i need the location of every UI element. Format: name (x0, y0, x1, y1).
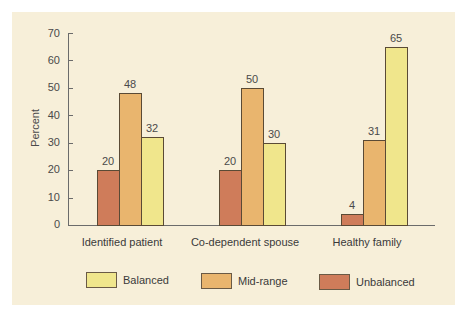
bar-balanced-2 (385, 47, 408, 226)
y-tick-50: 50 (38, 81, 60, 93)
y-tick-mark (68, 88, 73, 89)
y-tick-mark (68, 33, 73, 34)
y-axis-line (68, 33, 69, 225)
y-tick-40: 40 (38, 109, 60, 121)
bar-value-label: 48 (115, 78, 145, 90)
y-tick-0: 0 (38, 218, 60, 230)
bar-value-label: 32 (137, 122, 167, 134)
bar-unbalanced-0 (97, 170, 120, 226)
bar-value-label: 65 (381, 32, 411, 44)
y-tick-60: 60 (38, 54, 60, 66)
bar-balanced-1 (263, 143, 286, 226)
legend-swatch-mid-range (201, 273, 232, 289)
legend-label-balanced: Balanced (123, 274, 169, 286)
y-tick-30: 30 (38, 136, 60, 148)
y-tick-mark (68, 115, 73, 116)
bar-mid-range-0 (119, 93, 142, 226)
bar-mid-range-2 (363, 140, 386, 226)
y-tick-mark (68, 198, 73, 199)
legend-label-unbalanced: Unbalanced (356, 276, 415, 288)
bar-value-label: 50 (237, 73, 267, 85)
bar-unbalanced-1 (219, 170, 242, 226)
y-tick-20: 20 (38, 163, 60, 175)
y-tick-mark (68, 60, 73, 61)
x-category-identified-patient: Identified patient (52, 236, 192, 248)
y-tick-mark (68, 143, 73, 144)
y-tick-70: 70 (38, 27, 60, 39)
y-tick-mark (68, 170, 73, 171)
y-tick-10: 10 (38, 191, 60, 203)
bar-balanced-0 (141, 137, 164, 226)
x-category-healthy-family: Healthy family (297, 236, 437, 248)
bar-unbalanced-2 (341, 214, 364, 226)
legend-label-mid-range: Mid-range (238, 275, 288, 287)
y-tick-mark (68, 225, 73, 226)
x-category-co-dependent-spouse: Co-dependent spouse (175, 236, 315, 248)
bar-value-label: 30 (259, 128, 289, 140)
bar-mid-range-1 (241, 88, 264, 226)
legend-swatch-unbalanced (319, 274, 350, 290)
legend-swatch-balanced (86, 272, 117, 288)
